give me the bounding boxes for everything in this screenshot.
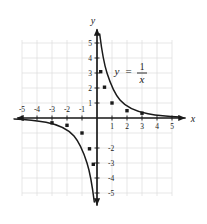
x-tick-label--1: -1 (79, 105, 85, 114)
equation-numerator: 1 (140, 62, 145, 72)
x-tick-label-1: 1 (110, 122, 114, 131)
y-tick-label--4: -4 (108, 174, 114, 183)
y-tick-label--5: -5 (108, 189, 114, 198)
equation-denominator: x (139, 73, 145, 85)
x-tick-label--3: -3 (49, 105, 55, 114)
data-point (50, 121, 53, 124)
data-point (88, 147, 91, 150)
equation-operator: = (125, 65, 131, 77)
data-point (80, 131, 83, 134)
x-tick-label--5: -5 (19, 105, 25, 114)
y-tick-label-1: 1 (88, 99, 92, 108)
x-tick-label-3: 3 (140, 122, 144, 131)
graph-figure: -5 -4 -3 -2 -1 1 2 3 4 5 5 4 3 2 1 -2 -3… (0, 0, 207, 224)
equation-annotation: y = 1 x (114, 62, 147, 85)
data-point (99, 70, 102, 73)
x-tick-label-2: 2 (125, 122, 129, 131)
data-point (125, 109, 128, 112)
y-tick-label-3: 3 (88, 69, 92, 78)
data-point (65, 124, 68, 127)
y-tick-label--2: -2 (108, 144, 114, 153)
data-point (110, 101, 113, 104)
x-axis-label: x (190, 113, 196, 124)
x-tick-label-4: 4 (155, 122, 159, 131)
x-tick-label--4: -4 (34, 105, 40, 114)
y-tick-label-4: 4 (88, 54, 92, 63)
y-axis-label: y (90, 15, 96, 26)
data-point (92, 163, 95, 166)
y-tick-label--3: -3 (108, 159, 114, 168)
coordinate-plane: -5 -4 -3 -2 -1 1 2 3 4 5 5 4 3 2 1 -2 -3… (0, 0, 207, 224)
equation-lhs: y (114, 65, 120, 77)
y-tick-label-5: 5 (88, 39, 92, 48)
y-tick-label-2: 2 (88, 84, 92, 93)
data-point (140, 112, 143, 115)
data-point (103, 86, 106, 89)
x-tick-label-5: 5 (170, 122, 174, 131)
x-tick-label--2: -2 (64, 105, 70, 114)
